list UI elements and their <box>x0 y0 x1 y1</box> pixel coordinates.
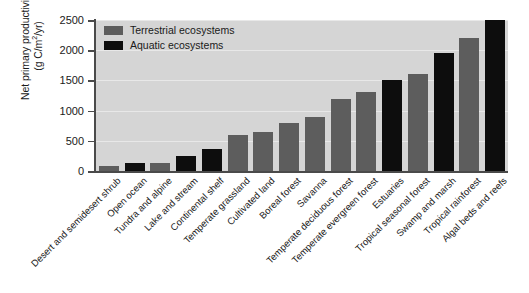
legend-label-aquatic: Aquatic ecosystems <box>130 39 223 51</box>
bar-open-ocean[interactable] <box>125 163 145 171</box>
y-tick-label-0: 0 <box>44 165 84 177</box>
y-axis-units-tail: /yr) <box>32 21 44 36</box>
y-axis-line <box>94 19 96 172</box>
y-tick-label-2500: 2500 <box>44 14 84 26</box>
bar-lake-and-stream[interactable] <box>176 156 196 171</box>
y-tick-label-500: 500 <box>44 135 84 147</box>
legend-swatch-terrestrial <box>104 26 123 35</box>
legend-item-terrestrial[interactable]: Terrestrial ecosystems <box>104 24 234 36</box>
y-tick-mark-1500 <box>88 80 94 82</box>
bar-temperate-deciduous-forest[interactable] <box>331 99 351 171</box>
chart-legend: Terrestrial ecosystemsAquatic ecosystems <box>104 24 234 51</box>
chart-figure: Net primary productivity (g C/m2/yr) 050… <box>0 0 529 293</box>
y-axis-units-base: (g C/m <box>32 40 44 71</box>
y-tick-mark-500 <box>88 141 94 143</box>
gridline-2500 <box>96 20 508 21</box>
bar-boreal-forest[interactable] <box>279 123 299 171</box>
bar-tropical-rainforest[interactable] <box>459 38 479 171</box>
bar-algal-beds-and-reefs[interactable] <box>485 20 505 171</box>
y-tick-label-1500: 1500 <box>44 74 84 86</box>
y-axis-title-line-1: Net primary productivity <box>20 0 32 100</box>
legend-item-aquatic[interactable]: Aquatic ecosystems <box>104 39 234 51</box>
legend-label-terrestrial: Terrestrial ecosystems <box>130 24 234 36</box>
y-tick-mark-0 <box>88 171 94 173</box>
x-axis-line <box>94 171 508 173</box>
bar-swamp-and-marsh[interactable] <box>434 53 454 171</box>
bar-tropical-seasonal-forest[interactable] <box>408 74 428 171</box>
y-axis-title-line-2: (g C/m2/yr) <box>31 21 44 70</box>
x-tick-label-desert-and-semidesert-shrub: Desert and semidesert shrub <box>29 175 123 269</box>
bar-continental-shelf[interactable] <box>202 149 222 171</box>
bar-temperate-evergreen-forest[interactable] <box>356 92 376 171</box>
bar-savanna[interactable] <box>305 117 325 171</box>
y-axis-units-exponent: 2 <box>31 36 38 40</box>
y-tick-label-2000: 2000 <box>44 44 84 56</box>
y-tick-label-1000: 1000 <box>44 105 84 117</box>
bar-cultivated-land[interactable] <box>253 132 273 171</box>
legend-swatch-aquatic <box>104 41 123 50</box>
bar-temperate-grassland[interactable] <box>228 135 248 171</box>
y-tick-mark-1000 <box>88 111 94 113</box>
y-tick-mark-2500 <box>88 20 94 22</box>
bar-tundra-and-alpine[interactable] <box>150 163 170 171</box>
bar-estuaries[interactable] <box>382 80 402 171</box>
y-tick-mark-2000 <box>88 50 94 52</box>
